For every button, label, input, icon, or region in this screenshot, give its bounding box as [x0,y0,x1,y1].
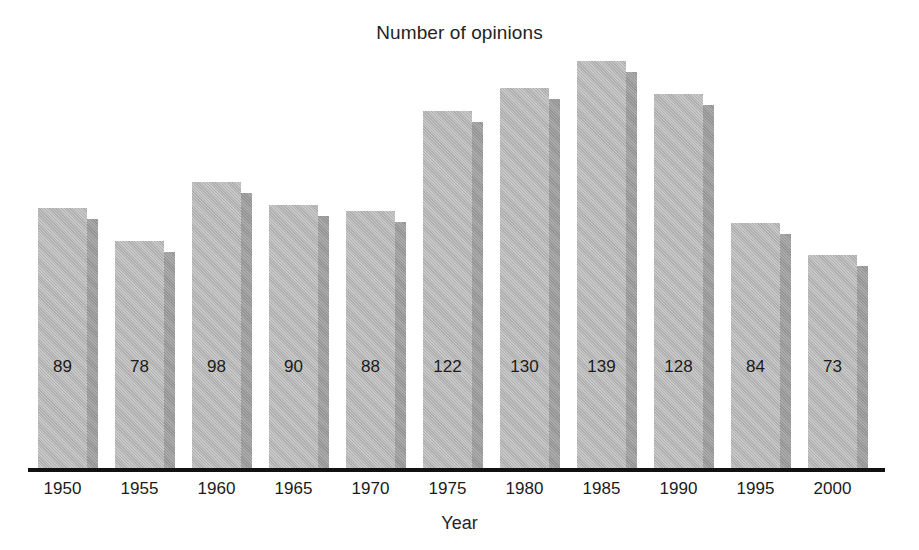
bar: 122 [423,111,483,470]
bar-value-label: 98 [192,357,241,377]
bar: 130 [500,88,560,470]
bar-side-face [318,216,329,470]
bar: 139 [577,61,637,470]
bar-top-bevel [472,111,483,122]
bar-front-face [115,241,164,470]
bar-value-label: 89 [38,357,87,377]
bar-side-face [241,193,252,470]
bar-value-label: 139 [577,357,626,377]
bar: 98 [192,182,252,470]
bar-top-bevel [241,182,252,193]
bar-top-bevel [703,94,714,105]
bar-top-bevel [87,208,98,219]
x-tick-label: 1975 [418,479,478,499]
bar-side-face [780,234,791,470]
bar-front-face [577,61,626,470]
bar-top-bevel [549,88,560,99]
bar-value-label: 84 [731,357,780,377]
bar: 90 [269,205,329,470]
bar-value-label: 122 [423,357,472,377]
bar-top-bevel [857,255,868,266]
bar-value-label: 73 [808,357,857,377]
bar-side-face [703,105,714,470]
plot-area: 89789890881221301391288473 [0,0,919,471]
bar-side-face [87,219,98,470]
bar-side-face [164,252,175,470]
bar: 84 [731,223,791,470]
x-tick-label: 1985 [572,479,632,499]
bar: 78 [115,241,175,470]
bar-front-face [38,208,87,470]
x-axis-line [28,468,885,472]
x-tick-label: 1960 [187,479,247,499]
bar: 73 [808,255,868,470]
bar: 88 [346,211,406,470]
bar-value-label: 90 [269,357,318,377]
bar-front-face [269,205,318,470]
bar-value-label: 88 [346,357,395,377]
x-tick-label: 1965 [264,479,324,499]
bar-side-face [549,99,560,470]
bar-top-bevel [318,205,329,216]
bar-front-face [423,111,472,470]
bar-front-face [346,211,395,470]
x-tick-label: 1970 [341,479,401,499]
bar-top-bevel [780,223,791,234]
x-tick-label: 1980 [495,479,555,499]
x-tick-label: 1995 [726,479,786,499]
bar-chart: Number of opinions 897898908812213013912… [0,0,919,550]
x-tick-label: 1950 [33,479,93,499]
bar-side-face [395,222,406,470]
bar-front-face [731,223,780,470]
bar-value-label: 128 [654,357,703,377]
bar: 128 [654,94,714,470]
bar-front-face [500,88,549,470]
bar: 89 [38,208,98,470]
x-tick-label: 2000 [803,479,863,499]
bar-front-face [192,182,241,470]
bar-top-bevel [395,211,406,222]
bar-front-face [654,94,703,470]
x-axis-title: Year [0,513,919,534]
bar-value-label: 130 [500,357,549,377]
bar-side-face [857,266,868,470]
bar-top-bevel [164,241,175,252]
x-tick-label: 1990 [649,479,709,499]
bar-side-face [472,122,483,470]
bar-side-face [626,72,637,470]
bar-value-label: 78 [115,357,164,377]
bar-top-bevel [626,61,637,72]
x-tick-label: 1955 [110,479,170,499]
